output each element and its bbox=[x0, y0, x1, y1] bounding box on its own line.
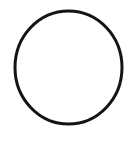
circle-outline-image bbox=[0, 0, 136, 141]
drawing-canvas bbox=[0, 0, 136, 141]
canvas-background bbox=[0, 0, 136, 141]
